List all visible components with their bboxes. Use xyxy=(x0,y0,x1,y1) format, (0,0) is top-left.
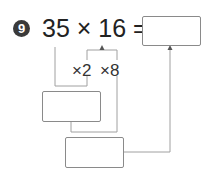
problem-number-badge: 9 xyxy=(13,20,30,37)
bracket-16 xyxy=(87,50,117,60)
line-box2-to-answer xyxy=(122,48,170,152)
intermediate-box[interactable] xyxy=(42,91,101,122)
final-box[interactable] xyxy=(65,137,124,168)
arrow-up-16 xyxy=(100,45,105,50)
step-times-8: ×8 xyxy=(100,61,119,81)
answer-box[interactable] xyxy=(142,16,201,46)
step-times-2: ×2 xyxy=(72,61,91,81)
expression: 35 × 16 = xyxy=(42,14,148,43)
